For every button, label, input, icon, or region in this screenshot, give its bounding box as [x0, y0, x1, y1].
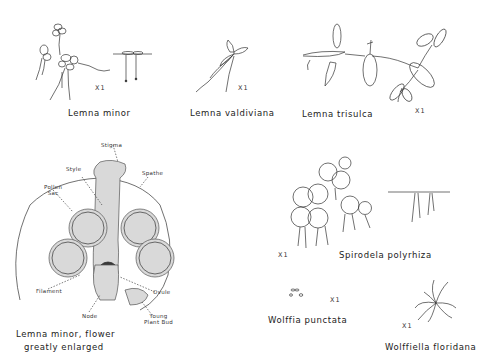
scale-label: X1	[402, 322, 413, 330]
lemna-minor-drawing	[36, 24, 152, 100]
species-label-lemna-minor: Lemna minor	[68, 108, 131, 118]
caption-flower-line2: greatly enlarged	[24, 342, 104, 352]
species-label-lemna-valdiviana: Lemna valdiviana	[190, 108, 275, 118]
scale-label: X1	[330, 296, 341, 304]
part-label-stigma: Stigma	[101, 142, 122, 148]
spirodela-polyrhiza-drawing	[291, 157, 450, 248]
species-label-wolffiella-floridana: Wolffiella floridana	[385, 342, 476, 352]
wolffia-punctata-drawing	[290, 289, 303, 296]
lemna-trisulca-drawing	[303, 24, 448, 103]
caption-flower-line1: Lemna minor, flower	[16, 329, 115, 339]
part-label-filament: Filament	[36, 288, 62, 294]
scale-label: X1	[238, 84, 249, 92]
species-label-wolffia-punctata: Wolffia punctata	[268, 315, 347, 325]
species-label-spirodela-polyrhiza: Spirodela polyrhiza	[339, 250, 432, 260]
part-label-spathe: Spathe	[142, 170, 163, 176]
scale-label: X1	[278, 251, 289, 259]
part-label-young-plant-bud: Young Plant Bud	[144, 313, 173, 326]
part-label-style: Style	[66, 166, 81, 172]
part-label-ovule: Ovule	[153, 289, 170, 295]
scale-label: X1	[415, 107, 426, 115]
wolffiella-floridana-drawing	[415, 280, 456, 322]
botanical-illustration	[0, 0, 489, 360]
scale-label: X1	[95, 84, 106, 92]
part-label-node: Node	[82, 313, 98, 319]
part-label-pollen-sac: Pollen Sac	[44, 184, 62, 197]
species-label-lemna-trisulca: Lemna trisulca	[302, 109, 373, 119]
